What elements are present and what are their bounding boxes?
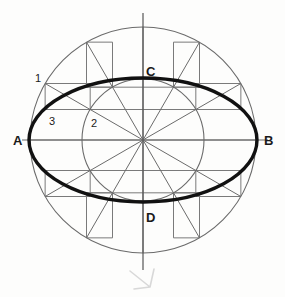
geometry-figure: A B C D 1 2 3 [0, 0, 285, 297]
label-vertex-c: C [146, 64, 156, 79]
ellipse-construction-diagram: A B C D 1 2 3 [0, 0, 285, 297]
label-vertex-b: B [264, 133, 273, 148]
label-point-2: 2 [91, 117, 97, 129]
pencil-scribble-mark [130, 269, 154, 289]
label-point-3: 3 [49, 115, 55, 127]
label-point-1: 1 [35, 72, 41, 84]
label-vertex-d: D [146, 210, 155, 225]
label-vertex-a: A [13, 133, 23, 148]
